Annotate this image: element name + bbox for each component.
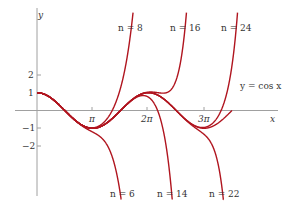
tick-label-y1: 1	[28, 88, 34, 98]
tick-label-3pi: 3π	[198, 114, 211, 124]
tick-label-ym2: −2	[22, 141, 35, 151]
label-n14: n = 14	[157, 189, 188, 199]
y-axis-label: y	[37, 10, 44, 20]
label-n8: n = 8	[118, 23, 143, 33]
curves-group	[37, 13, 238, 200]
tick-label-y2: 2	[28, 70, 34, 80]
curve-n22	[37, 93, 224, 200]
label-n6: n = 6	[110, 189, 135, 199]
chart-figure: y x π 2π 3π 2 1 −1 −2 n = 8 n = 16 n = 2…	[0, 0, 293, 207]
label-n24: n = 24	[221, 23, 252, 33]
tick-label-ym1: −1	[22, 123, 35, 133]
x-axis-label: x	[270, 114, 275, 124]
tick-label-2pi: 2π	[140, 114, 154, 124]
label-n16: n = 16	[170, 23, 201, 33]
curve-n14	[37, 93, 172, 200]
chart-svg: y x π 2π 3π 2 1 −1 −2 n = 8 n = 16 n = 2…	[0, 0, 293, 207]
label-n22: n = 22	[209, 189, 240, 199]
curve-n6	[37, 93, 121, 200]
label-cos: y = cos x	[239, 81, 281, 91]
tick-label-pi: π	[88, 114, 96, 124]
